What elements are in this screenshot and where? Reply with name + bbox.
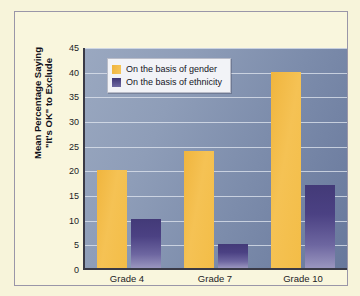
y-axis-title-line-1: Mean Percentage Saying <box>32 13 43 193</box>
gold-swatch-icon <box>112 65 121 74</box>
bar-ethnicity-grade-4 <box>131 219 161 268</box>
x-axis-tick-labels: Grade 4 Grade 7 Grade 10 <box>83 274 347 288</box>
y-axis-title: Mean Percentage Saying "It's OK" to Excl… <box>32 13 54 193</box>
bar-ethnicity-grade-10 <box>305 185 335 268</box>
gridline <box>85 122 347 123</box>
bar-gender-grade-4 <box>97 170 127 268</box>
y-tick-label: 15 <box>57 192 79 201</box>
y-tick-label: 5 <box>57 241 79 250</box>
y-tick-label: 25 <box>57 143 79 152</box>
x-tick-label-grade-10: Grade 10 <box>259 274 347 284</box>
bar-gender-grade-7 <box>184 151 214 268</box>
legend-item-gender: On the basis of gender <box>112 63 222 75</box>
y-axis-tick-labels: 45 40 35 30 25 20 15 10 5 0 <box>55 48 79 270</box>
x-tick-label-grade-7: Grade 7 <box>171 274 259 284</box>
y-tick-label: 30 <box>57 118 79 127</box>
legend-item-ethnicity: On the basis of ethnicity <box>112 76 222 88</box>
chart-figure: Mean Percentage Saying "It's OK" to Excl… <box>0 0 360 296</box>
y-tick-label: 35 <box>57 93 79 102</box>
chart-legend: On the basis of gender On the basis of e… <box>107 58 231 93</box>
bar-ethnicity-grade-7 <box>218 244 248 268</box>
y-tick-label: 0 <box>57 266 79 275</box>
plot-area: On the basis of gender On the basis of e… <box>83 48 347 270</box>
y-tick-label: 45 <box>57 44 79 53</box>
gridline <box>85 97 347 98</box>
purple-swatch-icon <box>112 78 121 87</box>
gridline <box>85 48 347 49</box>
legend-label-gender: On the basis of gender <box>126 65 217 74</box>
x-tick-label-grade-4: Grade 4 <box>83 274 171 284</box>
figure-frame: Mean Percentage Saying "It's OK" to Excl… <box>14 11 348 286</box>
legend-label-ethnicity: On the basis of ethnicity <box>126 78 222 87</box>
bar-gender-grade-10 <box>271 72 301 268</box>
y-axis-title-line-2: "It's OK" to Exclude <box>43 13 54 193</box>
y-tick-label: 10 <box>57 217 79 226</box>
gridline <box>85 147 347 148</box>
y-tick-label: 20 <box>57 167 79 176</box>
y-tick-label: 40 <box>57 69 79 78</box>
